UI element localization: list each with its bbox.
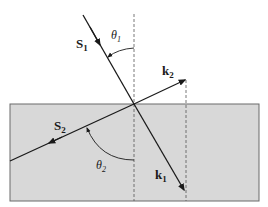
theta1-arc [108,48,134,57]
s1-arrow-icon [90,27,100,45]
label-theta1: θ1 [111,28,121,44]
lower-medium [10,104,259,201]
vector-k2 [134,80,185,104]
label-s1: S1 [76,36,88,53]
label-k2: k2 [162,63,174,80]
refraction-diagram: S1 θ1 k2 S2 θ2 k1 [0,0,268,207]
diagram-canvas: S1 θ1 k2 S2 θ2 k1 [0,0,268,207]
